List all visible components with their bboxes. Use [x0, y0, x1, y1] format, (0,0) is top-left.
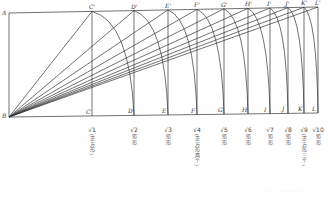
label-bottom-7: J — [280, 105, 285, 113]
top-edge — [9, 7, 318, 13]
caption-root: √1 — [86, 127, 98, 133]
label-top-3: F' — [193, 1, 200, 8]
label-top-2: E' — [164, 2, 171, 9]
label-bottom-6: I — [263, 106, 267, 113]
caption-desc: 矩形 — [315, 134, 321, 145]
diagonal-B-K' — [9, 7, 304, 117]
diagonal-B-E' — [9, 10, 168, 117]
diagonal-B-H' — [9, 8, 248, 117]
caption-desc: 矩形 — [267, 134, 273, 145]
label-top-8: K' — [300, 0, 307, 6]
root-rectangle-diagram: ABC'CD'DE'EF'FG'GH'HI'IJ'JK'KL'L — [0, 0, 331, 197]
caption-5: √6矩形 — [242, 127, 254, 145]
caption-root: √3 — [162, 127, 174, 133]
label-top-9: L' — [314, 0, 321, 6]
caption-root: √4 — [191, 127, 203, 133]
caption-2: √3矩形 — [162, 127, 174, 145]
caption-root: √6 — [242, 127, 254, 133]
label-bottom-8: K — [297, 105, 303, 112]
caption-root: √5 — [218, 127, 230, 133]
label-bottom-5: H — [241, 106, 248, 113]
caption-root: √7 — [264, 127, 276, 133]
label-B: B — [1, 112, 7, 119]
diagonal-B-L' — [9, 7, 318, 117]
label-top-4: G' — [221, 1, 228, 8]
caption-4: √5矩形 — [218, 127, 230, 145]
arc-I' — [270, 8, 288, 113]
caption-9: √10矩形 — [312, 127, 324, 145]
caption-root: √2 — [128, 127, 140, 133]
label-bottom-2: E — [161, 107, 167, 114]
caption-desc: (正方形三个) — [301, 134, 307, 166]
caption-root: √10 — [312, 127, 324, 133]
label-bottom-3: F — [190, 107, 196, 114]
label-bottom-0: C — [86, 108, 91, 115]
diagonal-B-F' — [9, 9, 197, 117]
footnote: · · · · · · · · · · · · — [262, 189, 314, 194]
label-A: A — [1, 9, 7, 16]
label-bottom-9: L — [311, 105, 316, 112]
arc-E' — [168, 10, 197, 115]
caption-desc: 矩形 — [165, 134, 171, 145]
label-bottom-1: D — [127, 107, 133, 114]
caption-8: √9(正方形三个) — [298, 127, 310, 166]
diagonal-B-I' — [9, 8, 270, 117]
caption-desc: (正方形两个) — [194, 134, 200, 166]
label-top-1: D' — [130, 3, 138, 10]
caption-1: √2矩形 — [128, 127, 140, 145]
caption-0: √1(正方形) — [86, 127, 98, 155]
caption-desc: 矩形 — [221, 134, 227, 145]
caption-desc: 矩形 — [131, 134, 137, 145]
caption-desc: (正方形) — [89, 134, 95, 155]
caption-root: √9 — [298, 127, 310, 133]
diagonal-B-J' — [9, 8, 288, 117]
caption-7: √8矩形 — [282, 127, 294, 145]
caption-desc: 矩形 — [245, 134, 251, 145]
arc-J' — [288, 8, 304, 114]
label-top-0: C' — [89, 3, 96, 10]
label-top-5: H' — [244, 0, 252, 7]
diagonal-B-C' — [9, 11, 92, 117]
label-top-6: I' — [266, 0, 271, 7]
label-bottom-4: G — [218, 106, 223, 113]
caption-root: √8 — [282, 127, 294, 133]
caption-3: √4(正方形两个) — [191, 127, 203, 166]
arc-K' — [304, 7, 318, 113]
label-top-7: J' — [283, 0, 289, 8]
caption-6: √7矩形 — [264, 127, 276, 145]
caption-desc: 矩形 — [285, 134, 291, 145]
